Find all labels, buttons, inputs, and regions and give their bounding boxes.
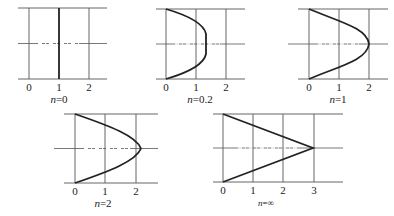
panel-n1: 0 1 2 n=1 xyxy=(288,9,388,105)
panel-ninf: 0 1 2 3 n=∞ xyxy=(213,114,343,208)
panel-label: n=1 xyxy=(329,93,346,105)
panel-n0: 0 1 2 n=0 xyxy=(18,8,107,105)
tick-label: 2 xyxy=(86,81,92,93)
tick-label: 2 xyxy=(223,81,229,93)
tick-label: 2 xyxy=(133,185,139,197)
tick-label: 0 xyxy=(72,185,78,197)
tick-label: 2 xyxy=(280,184,286,196)
velocity-profiles-diagram: 0 1 2 n=0 0 1 2 n=0.2 0 1 2 n=1 xyxy=(0,0,394,216)
tick-label: 0 xyxy=(163,81,169,93)
tick-label: 1 xyxy=(102,185,108,197)
panel-label: n=0.2 xyxy=(187,93,212,105)
tick-label: 1 xyxy=(336,81,342,93)
panel-label: n=∞ xyxy=(258,198,274,208)
panel-label: n=2 xyxy=(94,197,111,209)
tick-label: 1 xyxy=(250,184,256,196)
tick-label: 2 xyxy=(366,81,372,93)
tick-label: 0 xyxy=(220,184,226,196)
panel-n02: 0 1 2 n=0.2 xyxy=(156,9,245,105)
tick-label: 3 xyxy=(311,184,317,196)
tick-label: 0 xyxy=(306,81,312,93)
tick-label: 1 xyxy=(56,81,62,93)
panel-label: n=0 xyxy=(50,93,68,105)
tick-label: 0 xyxy=(26,81,32,93)
tick-label: 1 xyxy=(193,81,199,93)
panel-n2: 0 1 2 n=2 xyxy=(54,114,158,209)
